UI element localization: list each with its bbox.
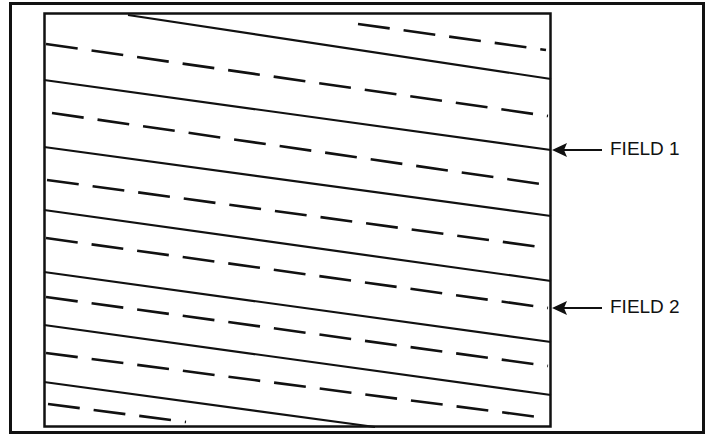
field-2-label: FIELD 2 — [610, 297, 680, 316]
dashed-track-line — [48, 404, 186, 422]
solid-track-line — [128, 15, 551, 79]
dashed-track-line — [46, 44, 548, 116]
field-1-label: FIELD 1 — [610, 139, 680, 158]
dashed-track-line — [358, 24, 546, 50]
solid-track-line — [44, 147, 551, 216]
solid-track-line — [44, 80, 551, 150]
dashed-track-line — [46, 238, 548, 308]
track-diagram — [0, 0, 710, 439]
dashed-track-line — [46, 353, 546, 418]
solid-tracks — [44, 15, 551, 427]
dashed-track-line — [47, 180, 548, 248]
field-arrows — [552, 143, 602, 315]
dashed-track-line — [52, 113, 548, 185]
dashed-tracks — [46, 24, 548, 422]
solid-track-line — [44, 210, 551, 281]
